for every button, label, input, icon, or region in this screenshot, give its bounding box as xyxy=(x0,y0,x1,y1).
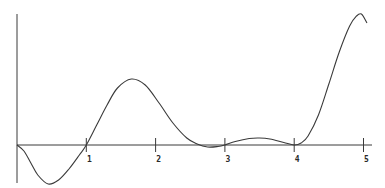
series-group xyxy=(17,14,367,185)
x-tick-label-4: 4 xyxy=(295,155,300,164)
series-line-curve xyxy=(17,14,367,185)
x-tick-labels: 12345 xyxy=(87,155,369,164)
x-tick-label-3: 3 xyxy=(225,155,230,164)
line-chart: 12345 xyxy=(0,0,385,188)
x-tick-label-2: 2 xyxy=(156,155,161,164)
x-tick-label-5: 5 xyxy=(364,155,369,164)
x-tick-label-1: 1 xyxy=(87,155,92,164)
